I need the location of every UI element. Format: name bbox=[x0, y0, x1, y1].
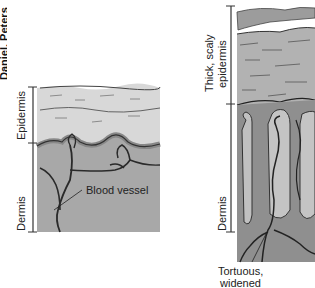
right-panel-illustration bbox=[226, 6, 315, 262]
label-thick-epidermis-line1: Thick, scaly bbox=[204, 35, 215, 92]
label-thick-epidermis-line2: epidermis bbox=[217, 40, 228, 88]
label-dermis-right: Dermis bbox=[217, 196, 228, 231]
label-epidermis-left: Epidermis bbox=[16, 91, 27, 140]
left-panel-illustration bbox=[28, 83, 160, 232]
skin-diagram-svg bbox=[0, 0, 315, 288]
label-blood-vessel: Blood vessel bbox=[86, 184, 148, 197]
label-tortuous-line2: widened bbox=[220, 277, 261, 288]
label-dermis-left: Dermis bbox=[16, 196, 27, 231]
